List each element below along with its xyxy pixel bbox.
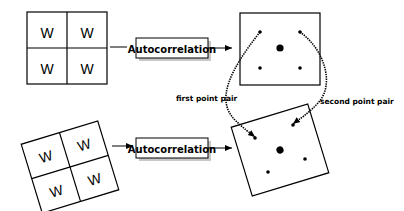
top-autocorrelation-result bbox=[240, 13, 320, 85]
grid-cell: W bbox=[75, 135, 93, 154]
grid-cell: W bbox=[48, 181, 66, 200]
process-label: Autocorrelation bbox=[128, 44, 216, 55]
first-point-pair-label: first point pair bbox=[176, 94, 238, 103]
second-point-pair-label: second point pair bbox=[320, 97, 394, 106]
grid-cell: W bbox=[40, 25, 54, 41]
grid-cell: W bbox=[37, 147, 55, 166]
process-label: Autocorrelation bbox=[128, 144, 216, 155]
top-w-grid: W W W W bbox=[27, 12, 107, 84]
grid-cell: W bbox=[40, 61, 54, 77]
grid-cell: W bbox=[80, 25, 94, 41]
top-autocorrelation-box: Autocorrelation bbox=[128, 38, 216, 61]
bottom-w-grid: W W W W bbox=[21, 121, 119, 211]
bottom-autocorrelation-box: Autocorrelation bbox=[128, 138, 216, 161]
grid-cell: W bbox=[80, 61, 94, 77]
grid-cell: W bbox=[86, 170, 104, 189]
bottom-autocorrelation-result bbox=[231, 104, 329, 196]
autocorrelation-diagram: W W W W Autocorrelation W W W W Autocorr… bbox=[0, 0, 404, 211]
